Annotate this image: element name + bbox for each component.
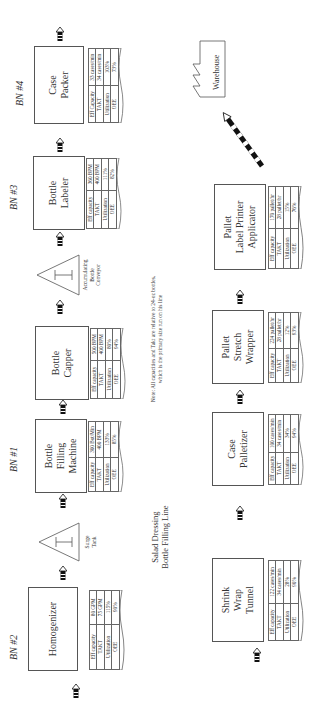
process-case-palletizer: Case Palletizer xyxy=(212,412,264,486)
data-box-case-packer: Eff Capacity33 cases/min TAKT34 cases/mi… xyxy=(88,48,124,123)
data-box-bottle-labeler: Eff capacity360 BPM TAKT400 BPM Utilizat… xyxy=(86,158,122,229)
inventory-triangle-icon xyxy=(38,522,80,562)
push-arrow-icon xyxy=(56,138,64,152)
push-arrow-icon xyxy=(59,566,67,580)
process-name: Pallet Stretch Wrapper xyxy=(220,330,256,365)
data-box-homogenizer: Eff capacity80 GPM TAKT75 GPM Utilizatio… xyxy=(89,590,125,670)
warehouse-label: Warehouse xyxy=(212,55,221,90)
process-name: Homogenizer xyxy=(47,602,59,656)
process-bottle-labeler: Bottle Labeler xyxy=(33,156,85,230)
push-arrow-icon xyxy=(59,494,67,508)
process-case-packer: Case Packer xyxy=(34,46,84,124)
push-arrow-icon xyxy=(236,290,244,304)
process-name: Bottle Filling Machine xyxy=(43,439,79,474)
data-box-case-palletizer: Eff capacity100 cases/min TAKT34 cases/m… xyxy=(268,414,304,485)
bottleneck-label-labeler: BN #3 xyxy=(8,185,19,210)
process-name: Shrink Wrap Tunnel xyxy=(220,586,256,614)
process-shrink-wrap-tunnel: Shrink Wrap Tunnel xyxy=(212,558,264,642)
push-arrow-icon xyxy=(56,232,64,246)
capacity-note: Note: All capacities and Takt are relati… xyxy=(150,224,164,454)
bottleneck-label-filling: BN #1 xyxy=(8,447,19,472)
process-name: Case Palletizer xyxy=(226,430,250,468)
push-arrow-icon xyxy=(236,390,244,404)
process-name: Pallet Label Printer Applicator xyxy=(222,201,258,253)
process-name: Case Packer xyxy=(47,71,71,98)
bottleneck-label-homogenizer: BN #2 xyxy=(8,635,19,660)
data-box-pallet-stretch-wrapper: Eff capacity224 pallet/hr TAKT28 pallet/… xyxy=(268,312,304,383)
push-arrow-icon xyxy=(253,648,261,662)
data-box-shrink-wrap: Eff capacity122 cases/min TAKT34 cases/m… xyxy=(268,560,304,641)
data-box-bottle-capper: Eff capacity500 BPM TAKT400 BPM Utilizat… xyxy=(90,328,126,399)
value-stream-map: BN #2 Homogenizer Eff capacity80 GPM TAK… xyxy=(0,0,336,704)
push-arrow-icon xyxy=(59,400,67,414)
process-bottle-filling-machine: Bottle Filling Machine xyxy=(35,419,87,493)
push-arrow-icon xyxy=(236,506,244,520)
process-name: Bottle Labeler xyxy=(47,178,71,209)
push-arrow-icon xyxy=(56,27,64,41)
surge-tank-label: Surge Tank xyxy=(84,526,97,558)
data-box-pallet-label-printer: Eff capacity170 pallet/hr TAKT28 pallet/… xyxy=(268,186,304,269)
process-name: Bottle Capper xyxy=(50,349,74,378)
process-bottle-capper: Bottle Capper xyxy=(35,326,89,400)
process-homogenizer: Homogenizer xyxy=(28,587,78,671)
push-arrow-icon xyxy=(72,684,80,698)
data-box-bottle-filling: Eff capacity300 Bot/Min TAKT400 BPM Util… xyxy=(88,421,124,492)
push-arrow-to-warehouse-icon xyxy=(218,98,268,168)
accumulating-conveyor-label: Accumulating Bottle Conveyor xyxy=(82,250,102,300)
process-pallet-label-printer: Pallet Label Printer Applicator xyxy=(214,184,266,270)
diagram-title: Salad Dressing Bottle Filling Line xyxy=(150,482,170,592)
inventory-triangle-icon xyxy=(36,254,80,296)
process-pallet-stretch-wrapper: Pallet Stretch Wrapper xyxy=(212,310,264,384)
bottleneck-label-case-packer: BN #4 xyxy=(14,81,25,106)
push-arrow-icon xyxy=(56,300,64,314)
